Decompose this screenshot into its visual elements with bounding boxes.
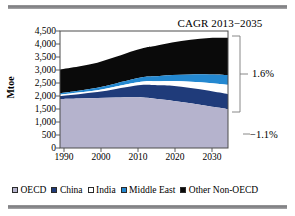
- legend-item-other-non-oecd: Other Non-OECD: [180, 185, 258, 195]
- legend-item-oecd: OECD: [12, 185, 46, 195]
- cagr-annotation-non-oecd: 1.6%: [252, 68, 274, 79]
- legend-label-oecd: OECD: [21, 185, 47, 195]
- legend-swatch-india: [88, 187, 94, 193]
- cagr-annotation-oecd: −1.1%: [250, 129, 278, 140]
- cagr-bracket-non-oecd: [232, 36, 248, 112]
- legend-label-other-non-oecd: Other Non-OECD: [189, 185, 258, 195]
- legend-item-china: China: [51, 185, 82, 195]
- y-axis-ticks: [56, 31, 60, 148]
- legend-label-india: India: [96, 185, 116, 195]
- chart-legend: OECD China India Middle East Other Non-O…: [12, 183, 287, 197]
- legend-label-middle-east: Middle East: [129, 185, 175, 195]
- legend-swatch-oecd: [12, 187, 18, 193]
- legend-label-china: China: [60, 185, 83, 195]
- figure-container: CAGR 2013−2035 Mtoe 4,500 4,000 3,500 3,…: [0, 0, 295, 216]
- x-axis-ticks: [64, 148, 212, 152]
- legend-swatch-china: [51, 187, 57, 193]
- legend-swatch-other-non-oecd: [180, 187, 186, 193]
- legend-item-middle-east: Middle East: [121, 185, 176, 195]
- legend-item-india: India: [88, 185, 116, 195]
- legend-swatch-middle-east: [121, 187, 127, 193]
